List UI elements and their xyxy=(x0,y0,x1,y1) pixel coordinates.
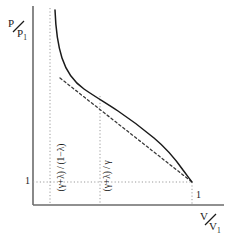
pressure-volume-figure: P P1 V V1 1 1 (γ+λ) / (1−λ) (γ+λ) / γ xyxy=(0,0,237,238)
annotation-middle-gridline: (γ+λ) / γ xyxy=(103,160,113,191)
x-axis-label: V V1 xyxy=(200,211,221,236)
isentropic-curve xyxy=(55,10,192,182)
y-axis-denominator: P1 xyxy=(8,28,27,43)
y-axis-tick-label-1: 1 xyxy=(25,176,30,186)
y-axis-denominator-subscript: 1 xyxy=(23,33,27,42)
y-axis-fraction: P P1 xyxy=(8,18,27,43)
x-axis-denominator-subscript: 1 xyxy=(217,226,221,235)
dashed-chord xyxy=(60,78,192,182)
x-axis-fraction: V V1 xyxy=(200,211,221,236)
y-axis-label: P P1 xyxy=(8,18,27,43)
x-axis-tick-label-1: 1 xyxy=(196,190,201,200)
x-axis-denominator: V1 xyxy=(200,221,221,236)
annotation-left-gridline: (γ+λ) / (1−λ) xyxy=(57,144,67,192)
plot-canvas xyxy=(0,0,237,238)
x-axis-denominator-base: V xyxy=(209,220,217,232)
